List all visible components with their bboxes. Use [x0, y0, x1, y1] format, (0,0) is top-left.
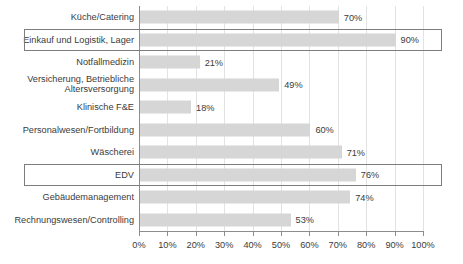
- bar-value-label: 74%: [350, 192, 373, 202]
- x-tick-30: [224, 232, 225, 236]
- bar-track: 21%: [140, 56, 424, 69]
- x-tick-0: [139, 232, 140, 236]
- bar-track: 49%: [140, 78, 424, 91]
- bar-row: Versicherung, Betriebliche Altersversorg…: [0, 74, 463, 97]
- category-label: Wäscherei: [8, 147, 134, 158]
- bar: [140, 101, 191, 114]
- bar-track: 70%: [140, 11, 424, 24]
- bar: [140, 78, 279, 91]
- category-label: EDV: [8, 169, 134, 180]
- category-label: Einkauf und Logistik, Lager: [8, 34, 134, 45]
- bar-value-label: 90%: [396, 35, 419, 45]
- bar-track: 74%: [140, 191, 424, 204]
- x-tick-label: 40%: [243, 240, 261, 250]
- category-label: Rechnungswesen/Controlling: [8, 214, 134, 225]
- x-tick-label: 20%: [187, 240, 205, 250]
- bar: [140, 213, 291, 226]
- bar-track: 53%: [140, 213, 424, 226]
- bar: [140, 56, 200, 69]
- x-tick-100: [423, 232, 424, 236]
- bar-value-label: 53%: [291, 215, 314, 225]
- x-tick-label: 70%: [329, 240, 347, 250]
- category-label: Küche/Catering: [8, 12, 134, 23]
- bar-track: 90%: [140, 33, 424, 46]
- bar-value-label: 60%: [310, 125, 333, 135]
- bar-value-label: 18%: [191, 102, 214, 112]
- bar-value-label: 70%: [339, 12, 362, 22]
- bar-value-label: 49%: [279, 80, 302, 90]
- x-tick-70: [338, 232, 339, 236]
- bar: [140, 123, 310, 136]
- bar-track: 76%: [140, 168, 424, 181]
- x-tick-10: [167, 232, 168, 236]
- category-label: Versicherung, Betriebliche Altersversorg…: [8, 74, 134, 95]
- x-tick-label: 100%: [411, 240, 435, 250]
- bar-track: 18%: [140, 101, 424, 114]
- bar-row: Klinische F&E18%: [0, 96, 463, 119]
- bar-row: Gebäudemanagement74%: [0, 186, 463, 209]
- bar-track: 60%: [140, 123, 424, 136]
- bar-track: 71%: [140, 146, 424, 159]
- bar-value-label: 76%: [356, 170, 379, 180]
- x-tick-label: 0%: [132, 240, 145, 250]
- category-label: Klinische F&E: [8, 102, 134, 113]
- x-tick-90: [395, 232, 396, 236]
- bar-row: Personalwesen/Fortbildung60%: [0, 119, 463, 142]
- x-tick-label: 90%: [385, 240, 403, 250]
- x-tick-label: 80%: [357, 240, 375, 250]
- x-tick-60: [309, 232, 310, 236]
- bar-row: Notfallmedizin21%: [0, 51, 463, 74]
- bar-row: Rechnungswesen/Controlling53%: [0, 209, 463, 232]
- category-label: Personalwesen/Fortbildung: [8, 124, 134, 135]
- x-tick-40: [253, 232, 254, 236]
- category-label: Gebäudemanagement: [8, 192, 134, 203]
- bar: [140, 146, 342, 159]
- x-tick-80: [366, 232, 367, 236]
- bar: [140, 191, 350, 204]
- bar-row: EDV76%: [0, 164, 463, 187]
- x-tick-50: [281, 232, 282, 236]
- x-tick-label: 60%: [300, 240, 318, 250]
- bar: [140, 33, 396, 46]
- bar-value-label: 21%: [200, 57, 223, 67]
- bar: [140, 168, 356, 181]
- category-label: Notfallmedizin: [8, 57, 134, 68]
- x-tick-label: 10%: [158, 240, 176, 250]
- x-tick-20: [196, 232, 197, 236]
- bar-row: Einkauf und Logistik, Lager90%: [0, 29, 463, 52]
- bar: [140, 11, 339, 24]
- bar-chart: Küche/Catering70%Einkauf und Logistik, L…: [0, 0, 463, 264]
- bar-value-label: 71%: [342, 147, 365, 157]
- x-tick-label: 50%: [272, 240, 290, 250]
- bar-row: Wäscherei71%: [0, 141, 463, 164]
- x-tick-label: 30%: [215, 240, 233, 250]
- bar-row: Küche/Catering70%: [0, 6, 463, 29]
